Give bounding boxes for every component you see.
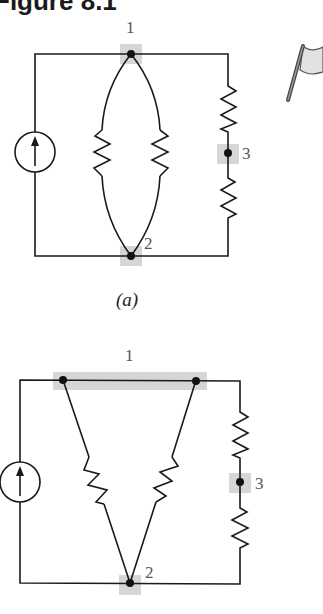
left-diagonal-resistor	[63, 380, 130, 583]
circuit-diagrams: 1 2 3 (a)	[0, 0, 323, 614]
node-2	[127, 252, 135, 260]
right-lower-resistor	[221, 153, 236, 228]
node-3	[236, 478, 244, 486]
node-2	[126, 579, 134, 587]
current-source	[15, 132, 55, 172]
node-1	[127, 50, 135, 58]
bottom-wire	[35, 172, 228, 256]
node-1-label: 1	[125, 346, 134, 365]
node-2-label: 2	[144, 234, 153, 253]
node-3-label: 3	[255, 474, 264, 493]
right-upper-resistor	[221, 84, 236, 153]
right-parallel-resistor	[131, 54, 168, 256]
node-1-label: 1	[126, 18, 135, 37]
node-1b	[192, 377, 200, 385]
top-wire	[35, 54, 228, 132]
arrow-up-icon	[31, 136, 39, 146]
node-3	[224, 149, 232, 157]
panel-a: 1 2 3 (a)	[15, 18, 251, 311]
panel-a-caption: (a)	[116, 289, 138, 311]
current-source	[0, 462, 40, 502]
node-3-label: 3	[242, 144, 251, 163]
node-1a	[59, 376, 67, 384]
right-diagonal-resistor	[130, 380, 196, 583]
right-upper-resistor	[233, 410, 248, 482]
top-wire	[20, 380, 240, 462]
left-parallel-resistor	[94, 54, 131, 256]
bottom-wire	[20, 502, 240, 584]
flag-icon	[288, 46, 323, 100]
panel-b: 1 2 3	[0, 346, 264, 595]
arrow-up-icon	[16, 466, 24, 476]
node-2-label: 2	[145, 563, 154, 582]
